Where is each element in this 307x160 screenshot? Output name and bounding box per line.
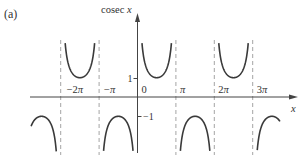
axis-labels: −2π−π0π2π3π	[67, 84, 268, 95]
cosec-chart: −2π−π0π2π3π (a) cosec x x 1 −1	[0, 0, 307, 160]
panel-label: (a)	[4, 7, 17, 21]
x-tick-label: −π	[104, 84, 116, 95]
curve-branch	[104, 116, 133, 151]
x-tick-label: 2π	[218, 84, 229, 95]
x-tick-label: −2π	[67, 84, 84, 95]
x-tick-label: π	[180, 84, 186, 95]
curve-branch	[142, 43, 171, 78]
curve-branch	[31, 116, 56, 151]
curve-branch	[65, 43, 94, 78]
x-axis-label: x	[290, 103, 296, 114]
y-axis-label: cosec x	[101, 4, 132, 15]
curve-branch	[257, 116, 280, 150]
x-tick-label: 0	[142, 84, 147, 95]
x-axis-arrow-icon	[289, 95, 298, 100]
y-tick-label-1: 1	[128, 73, 133, 84]
y-tick-label-minus-1: −1	[143, 111, 154, 122]
curve-branch	[180, 116, 209, 151]
y-axis-arrow-icon	[135, 13, 140, 22]
curve-branch	[219, 43, 248, 78]
x-tick-label: 3π	[257, 84, 268, 95]
